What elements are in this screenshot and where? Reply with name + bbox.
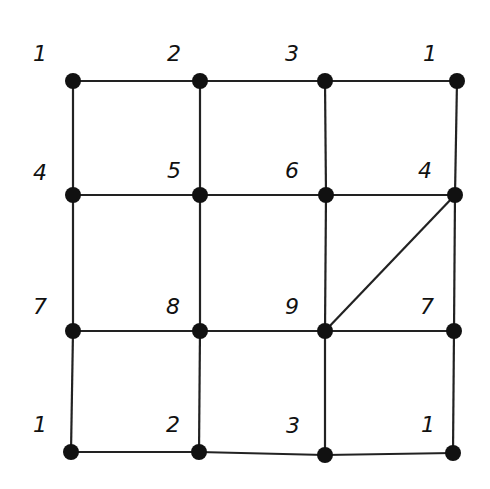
node-label: 7 — [420, 296, 434, 318]
node-label: 4 — [33, 162, 47, 184]
node-label: 1 — [421, 414, 435, 436]
node-label: 2 — [167, 43, 181, 65]
node-n10 — [65, 187, 81, 203]
edge-n21-n31 — [199, 331, 200, 452]
edge-n32-n33 — [325, 453, 453, 455]
node-n31 — [191, 444, 207, 460]
edge-n22-n13 — [325, 195, 455, 331]
node-label: 9 — [285, 296, 299, 318]
node-label: 7 — [33, 296, 47, 318]
node-n00 — [65, 73, 81, 89]
node-n33 — [445, 445, 461, 461]
node-label: 6 — [285, 160, 299, 182]
node-label: 8 — [166, 296, 180, 318]
node-n13 — [447, 187, 463, 203]
node-label: 4 — [418, 160, 432, 182]
node-label: 1 — [33, 414, 47, 436]
node-label: 3 — [285, 43, 299, 65]
node-n20 — [65, 323, 81, 339]
node-n03 — [449, 73, 465, 89]
node-n32 — [317, 447, 333, 463]
edge-n12-n22 — [325, 195, 326, 331]
graph-canvas — [0, 0, 490, 489]
node-n11 — [192, 187, 208, 203]
node-n23 — [446, 323, 462, 339]
node-n21 — [192, 323, 208, 339]
grid-graph-diagram: 1231456478971231 — [0, 0, 490, 489]
node-n30 — [63, 444, 79, 460]
node-n12 — [318, 187, 334, 203]
edge-n23-n33 — [453, 331, 454, 453]
node-n01 — [192, 73, 208, 89]
edge-n03-n13 — [455, 81, 457, 195]
node-label: 5 — [167, 160, 181, 182]
node-label: 1 — [33, 43, 47, 65]
node-n22 — [317, 323, 333, 339]
node-label: 1 — [423, 43, 437, 65]
edge-n13-n23 — [454, 195, 455, 331]
node-label: 2 — [166, 414, 180, 436]
node-label: 3 — [286, 415, 300, 437]
edge-n20-n30 — [71, 331, 73, 452]
edge-n02-n12 — [325, 81, 326, 195]
edge-n31-n32 — [199, 452, 325, 455]
node-n02 — [317, 73, 333, 89]
